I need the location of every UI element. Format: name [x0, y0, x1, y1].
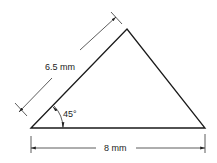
- triangle-shape: [31, 29, 205, 128]
- slant-dimension-line-lower: [19, 78, 52, 112]
- angle-label: 45°: [63, 109, 77, 119]
- triangle-diagram: 6.5 mm 45° 8 mm: [0, 0, 217, 163]
- base-label: 8 mm: [104, 143, 127, 153]
- slant-side-label: 6.5 mm: [45, 62, 75, 72]
- slant-extension-line-top: [111, 12, 122, 24]
